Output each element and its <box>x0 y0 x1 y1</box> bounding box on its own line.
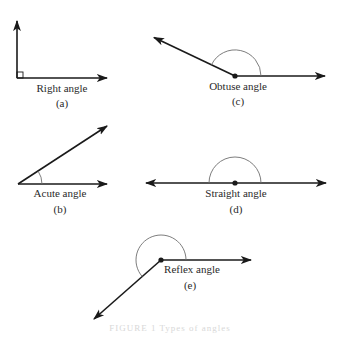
angle-arc-icon <box>38 171 42 184</box>
vertex-dot-icon <box>158 257 163 262</box>
reflex-angle-sublabel: (e) <box>184 280 196 291</box>
acute-angle-diagram <box>18 126 107 184</box>
vertex-dot-icon <box>232 180 237 185</box>
straight-angle-diagram <box>146 157 326 186</box>
reflex-angle-diagram <box>94 235 251 319</box>
ray-diagonal-arrow-icon <box>18 126 107 184</box>
acute-angle-sublabel: (b) <box>54 204 67 215</box>
obtuse-angle-diagram <box>154 38 325 79</box>
acute-angle-label: Acute angle <box>34 188 87 199</box>
figure-caption: FIGURE 1 Types of angles <box>109 323 231 333</box>
reflex-angle-label: Reflex angle <box>164 264 220 275</box>
right-angle-label: Right angle <box>36 83 87 94</box>
right-angle-sublabel: (a) <box>56 98 68 109</box>
obtuse-angle-label: Obtuse angle <box>209 81 267 92</box>
angles-diagram <box>0 0 341 337</box>
ray-upper-left-arrow-icon <box>154 38 235 77</box>
ray-lower-left-arrow-icon <box>94 260 161 319</box>
obtuse-angle-sublabel: (c) <box>232 96 244 107</box>
right-angle-square-icon <box>17 72 23 78</box>
angle-arc-icon <box>212 50 262 76</box>
vertex-dot-icon <box>232 73 237 78</box>
straight-angle-label: Straight angle <box>205 188 266 199</box>
straight-angle-sublabel: (d) <box>230 204 243 215</box>
angle-arc-icon <box>209 157 261 183</box>
right-angle-diagram <box>17 21 107 78</box>
angle-types-figure: Right angle (a) Acute angle (b) Obtuse a… <box>0 0 341 337</box>
